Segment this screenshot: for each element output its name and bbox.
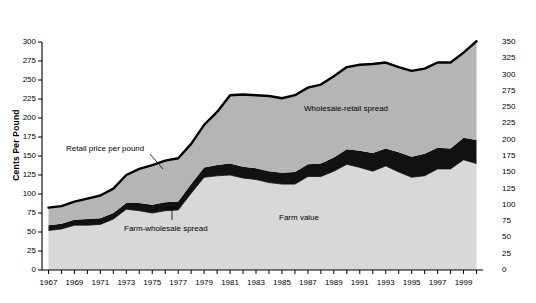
y-tick-label-left-100: 100 [6, 189, 36, 198]
y-tick-label-right-125: 125 [502, 184, 515, 193]
y-tick-label-right-100: 100 [502, 200, 515, 209]
y-tick-label-right-225: 225 [502, 118, 515, 127]
y-tick-label-left-0: 0 [6, 265, 36, 274]
y-tick-label-left-50: 50 [6, 227, 36, 236]
y-tick-label-left-150: 150 [6, 151, 36, 160]
y-tick-label-left-225: 225 [6, 94, 36, 103]
y-tick-label-right-350: 350 [502, 37, 515, 46]
y-tick-label-right-25: 25 [502, 249, 511, 258]
y-tick-label-right-275: 275 [502, 86, 515, 95]
y-tick-label-right-0: 0 [502, 265, 506, 274]
y-tick-label-left-275: 275 [6, 56, 36, 65]
y-tick-label-right-50: 50 [502, 232, 511, 241]
chart-container: Cents Per Pound 025507510012515017520022… [0, 0, 536, 303]
annotation-retail-price-per-pound: Retail price per pound [66, 144, 144, 153]
y-tick-label-left-250: 250 [6, 75, 36, 84]
x-tick-label-1999: 1999 [449, 278, 479, 287]
y-tick-label-right-250: 250 [502, 102, 515, 111]
y-tick-label-left-300: 300 [6, 37, 36, 46]
y-tick-label-right-75: 75 [502, 216, 511, 225]
y-tick-label-right-150: 150 [502, 167, 515, 176]
annotation-wholesale-retail-spread: Wholesale-retail spread [304, 104, 388, 113]
y-tick-label-right-200: 200 [502, 135, 515, 144]
y-tick-label-left-25: 25 [6, 246, 36, 255]
y-tick-label-right-325: 325 [502, 53, 515, 62]
y-tick-label-left-200: 200 [6, 113, 36, 122]
y-tick-label-left-175: 175 [6, 132, 36, 141]
y-tick-label-right-175: 175 [502, 151, 515, 160]
y-tick-label-right-300: 300 [502, 70, 515, 79]
y-tick-label-left-125: 125 [6, 170, 36, 179]
annotation-farm-value: Farm value [279, 213, 319, 222]
y-tick-label-left-75: 75 [6, 208, 36, 217]
annotation-farm-wholesale-spread: Farm-wholesale spread [124, 224, 208, 233]
